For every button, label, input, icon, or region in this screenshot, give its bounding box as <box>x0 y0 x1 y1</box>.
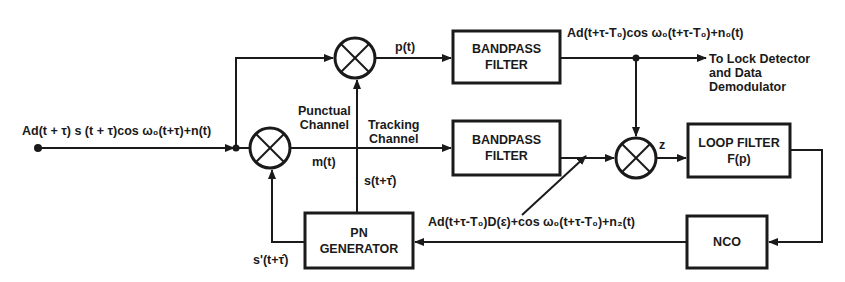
punctual-channel-label: Punctual Channel <box>298 104 351 132</box>
pn-generator-line1: PN <box>350 225 367 241</box>
loop-mixer <box>616 138 656 178</box>
wire-s-prime-hat <box>272 170 305 242</box>
punctual-channel-line1: Punctual <box>298 104 351 118</box>
bandpass-filter-2-line2: FILTER <box>485 148 528 164</box>
tracking-channel-line1: Tracking <box>368 118 419 132</box>
output-destination-label: To Lock Detector and Data Demodulator <box>709 52 810 94</box>
nco-label: NCO <box>713 234 741 250</box>
nco: NCO <box>687 216 767 268</box>
output-destination-line2: and Data <box>709 66 810 80</box>
bandpass-filter-1-line2: FILTER <box>485 57 528 73</box>
input-signal-label: Ad(t + τ) s (t + τ)cos ω₀(t+τ)+n(t) <box>22 124 211 138</box>
bandpass-filter-1-line1: BANDPASS <box>472 41 541 57</box>
bandpass-filter-2-line1: BANDPASS <box>472 132 541 148</box>
loop-filter-line1: LOOP FILTER <box>698 135 779 151</box>
signal-bpf1-output: Ad(t+τ-T₀)cos ω₀(t+τ-T₀)+n₀(t) <box>567 26 744 40</box>
pn-generator-line2: GENERATOR <box>320 241 399 257</box>
signal-p-t: p(t) <box>395 40 415 54</box>
signal-s-prime-hat: s'(t+τ̂) <box>253 253 288 267</box>
signal-s-hat: s(t+τ̂) <box>364 174 396 188</box>
punctual-mixer <box>335 38 375 78</box>
tracking-channel-label: Tracking Channel <box>368 118 419 146</box>
output-destination-line3: Demodulator <box>709 80 810 94</box>
tracking-channel-line2: Channel <box>368 132 419 146</box>
tracking-mixer <box>250 128 290 168</box>
signal-bpf2-output: Ad(t+τ-T₀)D(ε)+cos ω₀(t+τ-T₀)+n₂(t) <box>428 215 635 229</box>
signal-z: z <box>659 138 665 152</box>
pn-generator: PN GENERATOR <box>305 213 413 268</box>
punctual-channel-line2: Channel <box>298 118 351 132</box>
loop-filter-line2: F(p) <box>727 151 751 167</box>
output-destination-line1: To Lock Detector <box>709 52 810 66</box>
bandpass-filter-2: BANDPASS FILTER <box>453 121 560 175</box>
loop-filter: LOOP FILTER F(p) <box>688 124 790 177</box>
bandpass-filter-1: BANDPASS FILTER <box>453 31 560 83</box>
signal-m-t: m(t) <box>312 155 336 169</box>
